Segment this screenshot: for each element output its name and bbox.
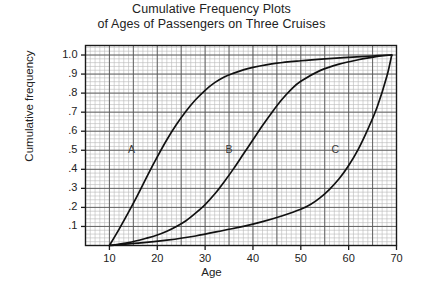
y-axis-label: Cumulative frequency: [23, 16, 35, 196]
x-axis-tick-label: 20: [142, 252, 172, 264]
x-axis-label: Age: [0, 266, 423, 278]
y-axis-tick-label: .8: [44, 86, 78, 98]
x-axis-tick-label: 30: [190, 252, 220, 264]
y-axis-tick-label: .6: [44, 124, 78, 136]
x-axis-tick-label: 10: [94, 252, 124, 264]
x-axis-tick-label: 50: [286, 252, 316, 264]
y-axis-tick-label: .1: [44, 219, 78, 231]
y-axis-tick-label: .7: [44, 105, 78, 117]
curve-label-a: A: [124, 143, 138, 155]
x-axis-tick-label: 70: [382, 252, 412, 264]
y-axis-tick-label: .5: [44, 143, 78, 155]
x-axis-tick-label: 60: [334, 252, 364, 264]
y-axis-tick-label: 1.0: [44, 48, 78, 60]
y-axis-tick-label: .4: [44, 162, 78, 174]
y-axis-tick-label: .9: [44, 67, 78, 79]
curve-label-c: C: [328, 143, 342, 155]
chart-title-line-1: Cumulative Frequency Plots: [0, 2, 423, 17]
cumulative-frequency-chart: Cumulative Frequency Plots of Ages of Pa…: [0, 0, 423, 292]
x-axis-tick-label: 40: [238, 252, 268, 264]
curve-label-b: B: [222, 143, 236, 155]
chart-title: Cumulative Frequency Plots of Ages of Pa…: [0, 2, 423, 32]
y-axis-tick-label: .3: [44, 181, 78, 193]
chart-title-line-2: of Ages of Passengers on Three Cruises: [0, 17, 423, 32]
y-axis-tick-label: .2: [44, 200, 78, 212]
